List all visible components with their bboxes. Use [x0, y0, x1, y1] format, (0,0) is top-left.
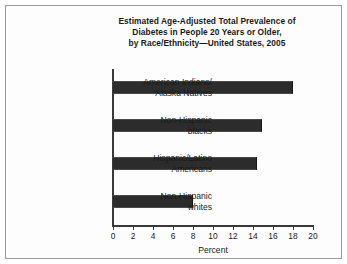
x-tick-label-20: 20: [301, 231, 325, 241]
x-tick-6: [173, 226, 174, 230]
x-tick-18: [293, 226, 294, 230]
category-label-line: Alaska Natives: [102, 88, 212, 99]
category-label-line: Non-Hispanic: [102, 115, 212, 126]
category-label-hispanic-latino-americans: Hispanic/Latino Americans: [102, 153, 212, 174]
x-tick-20: [313, 226, 314, 230]
x-tick-14: [253, 226, 254, 230]
x-tick-16: [273, 226, 274, 230]
plot-area: American Indians/ Alaska Natives Non-His…: [113, 69, 313, 225]
category-label-non-hispanic-whites: Non-Hispanic whites: [102, 191, 212, 212]
chart-title-line-1: Estimated Age-Adjusted Total Prevalence …: [76, 16, 338, 27]
x-tick-10: [213, 226, 214, 230]
chart-title-line-2: Diabetes in People 20 Years or Older,: [76, 27, 338, 38]
category-label-non-hispanic-blacks: Non-Hispanic blacks: [102, 115, 212, 136]
x-axis-label: Percent: [113, 245, 313, 255]
category-label-line: Non-Hispanic: [102, 191, 212, 202]
x-tick-2: [133, 226, 134, 230]
category-label-line: whites: [102, 202, 212, 213]
chart-border: Estimated Age-Adjusted Total Prevalence …: [5, 5, 342, 259]
x-tick-12: [233, 226, 234, 230]
x-tick-8: [193, 226, 194, 230]
x-tick-0: [113, 226, 114, 230]
category-axis-labels: American Indians/ Alaska Natives Non-His…: [105, 69, 212, 225]
chart-title-line-3: by Race/Ethnicity—United States, 2005: [76, 38, 338, 49]
category-label-line: Hispanic/Latino: [102, 153, 212, 164]
chart-title: Estimated Age-Adjusted Total Prevalence …: [76, 16, 338, 50]
category-label-line: American Indians/: [102, 77, 212, 88]
chart-figure: Estimated Age-Adjusted Total Prevalence …: [0, 0, 347, 264]
category-label-line: blacks: [102, 126, 212, 137]
category-label-american-indians-alaska-natives: American Indians/ Alaska Natives: [102, 77, 212, 98]
x-tick-4: [153, 226, 154, 230]
category-label-line: Americans: [102, 164, 212, 175]
